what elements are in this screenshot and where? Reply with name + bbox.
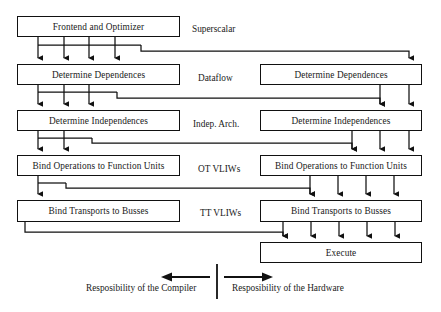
box-hardware-bind-operations-to-function-units[interactable]: Bind Operations to Function Units [260,155,422,176]
box-label: Bind Operations to Function Units [275,161,407,171]
box-hardware-bind-transports-to-busses[interactable]: Bind Transports to Busses [260,200,422,222]
arrows-dependences-to-independences [38,85,380,104]
box-hardware-determine-dependences[interactable]: Determine Dependences [260,64,422,85]
hw-arrows-independences-to-bindops [352,131,409,149]
label-dataflow: Dataflow [196,73,235,83]
hw-arrows-bindtransports-to-execute [283,222,395,236]
box-label: Bind Transports to Busses [49,206,149,216]
box-label: Determine Independences [291,116,390,126]
box-hardware-determine-independences[interactable]: Determine Independences [260,110,422,131]
box-label: Bind Operations to Function Units [33,161,165,171]
box-label: Determine Dependences [52,70,145,80]
box-label: Bind Transports to Busses [291,206,391,216]
box-label: Frontend and Optimizer [53,22,145,32]
label-text: Resposibility of the Hardware [232,283,344,293]
hw-arrows-dependences-to-independences [380,85,409,104]
arrows-independences-to-bindops [38,131,352,149]
label-responsibility-hardware: Resposibility of the Hardware [232,283,344,293]
label-text: Indep. Arch. [193,119,239,129]
label-text: Dataflow [198,73,233,83]
box-frontend-and-optimizer[interactable]: Frontend and Optimizer [17,16,180,37]
diagram-canvas: Frontend and Optimizer Determine Depende… [0,0,441,312]
label-text: Superscalar [192,24,235,34]
label-text: OT VLIWs [198,164,240,174]
label-text: Resposibility of the Compiler [86,283,196,293]
box-label: Execute [326,248,357,258]
box-hardware-execute[interactable]: Execute [260,242,422,263]
box-compiler-bind-operations-to-function-units[interactable]: Bind Operations to Function Units [17,155,180,176]
label-superscalar: Superscalar [190,24,237,34]
box-compiler-bind-transports-to-busses[interactable]: Bind Transports to Busses [17,200,180,222]
label-indep-arch: Indep. Arch. [191,119,241,129]
box-label: Determine Independences [49,116,148,126]
box-compiler-determine-independences[interactable]: Determine Independences [17,110,180,131]
box-compiler-determine-dependences[interactable]: Determine Dependences [17,64,180,85]
label-ot-vliws: OT VLIWs [196,164,242,174]
arrows-bindtransports-to-execute [25,222,283,236]
box-label: Determine Dependences [294,70,387,80]
arrows-bindops-to-bindtransports [38,176,310,194]
hw-arrows-bindops-to-bindtransports [310,176,394,194]
label-tt-vliws: TT VLIWs [198,208,243,218]
arrows-frontend-to-dependences [38,37,409,58]
label-responsibility-compiler: Resposibility of the Compiler [86,283,196,293]
label-text: TT VLIWs [200,208,241,218]
